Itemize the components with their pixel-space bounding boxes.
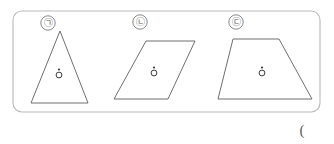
figure-panel-border	[13, 11, 320, 112]
shape-label-2: ㉡	[136, 17, 145, 27]
center-marker-dot-2	[153, 66, 155, 68]
center-marker-dot-3	[261, 66, 263, 68]
shape-label-3: ㉢	[232, 17, 241, 27]
figure-container: ㉠ ㉡ ㉢ (	[0, 0, 334, 144]
geometry-figure: ㉠ ㉡ ㉢ (	[0, 0, 334, 144]
trailing-parenthesis: (	[300, 122, 305, 139]
shape-label-1: ㉠	[44, 18, 53, 28]
center-marker-dot-1	[58, 68, 60, 70]
